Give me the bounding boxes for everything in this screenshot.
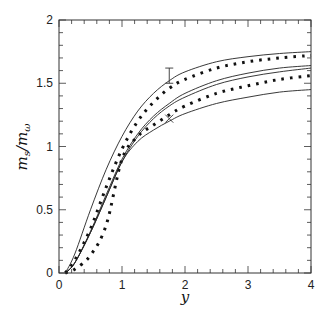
x-tick-label: 4	[308, 278, 315, 292]
x-tick-label: 0	[56, 278, 63, 292]
plot-frame	[59, 20, 311, 273]
series-dotted-lower	[65, 76, 311, 273]
series-solid-upper	[65, 52, 311, 273]
axes-layer: 0123400.511.52	[36, 13, 314, 292]
series-solid-middle-b	[65, 68, 311, 273]
svg-text:ms/mω: ms/mω	[13, 124, 32, 171]
series-dotted-upper	[65, 55, 311, 273]
y-tick-label: 1.5	[36, 76, 53, 90]
y-tick-label: 2	[46, 13, 53, 27]
series-solid-lower	[65, 90, 311, 273]
y-tick-label: 0	[46, 266, 53, 280]
y-axis-title: ms/mω	[13, 124, 32, 171]
chart: 0123400.511.52 y ms/mω	[0, 0, 324, 318]
x-tick-label: 3	[245, 278, 252, 292]
y-tick-label: 1	[46, 140, 53, 154]
series-layer	[65, 52, 311, 273]
series-solid-middle-a	[65, 66, 311, 273]
x-axis-title: y	[180, 288, 190, 306]
x-tick-label: 1	[119, 278, 126, 292]
y-tick-label: 0.5	[36, 203, 53, 217]
